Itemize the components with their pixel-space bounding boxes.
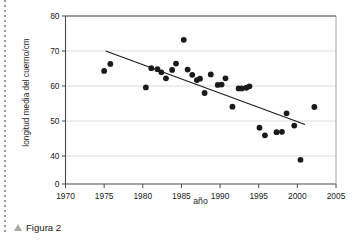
triangle-up-icon [14, 224, 22, 231]
data-point [202, 90, 208, 96]
data-point [230, 104, 236, 110]
data-point [101, 68, 107, 74]
data-point [158, 69, 164, 75]
x-tick-label: 1990 [200, 191, 240, 201]
data-point [163, 75, 169, 81]
data-point [284, 110, 290, 116]
data-point [311, 104, 317, 110]
data-point [185, 67, 191, 73]
x-tick-label: 2000 [277, 191, 317, 201]
data-point [107, 61, 113, 67]
data-point [208, 72, 214, 78]
axis-lines [66, 16, 337, 184]
data-point [257, 125, 263, 131]
data-point [247, 83, 253, 89]
y-tick-label: 70 [32, 46, 60, 56]
data-point [169, 67, 175, 73]
x-tick-label: 2005 [316, 191, 356, 201]
data-point [173, 61, 179, 67]
data-point [291, 123, 297, 129]
data-point [298, 157, 304, 163]
data-points [101, 37, 317, 163]
data-point [274, 129, 280, 135]
scatter-chart: longitud media del cuerno/cm año 0405060… [0, 0, 358, 212]
data-point [181, 37, 187, 43]
x-tick-label: 1980 [123, 191, 163, 201]
tick-marks [62, 16, 336, 188]
y-tick-label: 60 [32, 81, 60, 91]
data-point [279, 129, 285, 135]
figure-container: longitud media del cuerno/cm año 0405060… [0, 0, 358, 242]
figure-caption: Figura 2 [14, 222, 61, 233]
x-tick-label: 1985 [161, 191, 201, 201]
x-tick-label: 1995 [239, 191, 279, 201]
y-tick-label: 50 [32, 116, 60, 126]
data-point [223, 75, 229, 81]
x-tick-label: 1970 [46, 191, 86, 201]
data-point [148, 65, 154, 71]
data-point [262, 132, 268, 138]
x-tick-label: 1975 [84, 191, 124, 201]
data-point [143, 85, 149, 91]
data-point [189, 72, 195, 78]
figure-caption-label: Figura 2 [26, 222, 61, 233]
y-tick-label: 0 [32, 179, 60, 189]
trendline [106, 51, 305, 125]
data-point [197, 76, 203, 82]
y-tick-label: 40 [32, 151, 60, 161]
y-axis-title: longitud media del cuerno/cm [22, 23, 31, 163]
data-point [219, 82, 225, 88]
y-tick-label: 80 [32, 11, 60, 21]
